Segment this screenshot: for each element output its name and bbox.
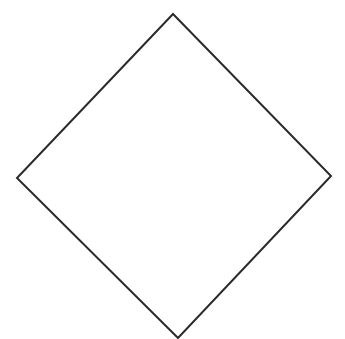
diagram-canvas bbox=[0, 0, 345, 339]
